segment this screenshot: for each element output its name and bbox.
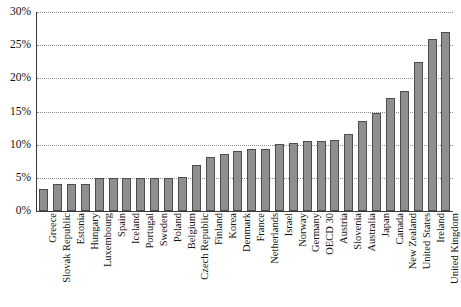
x-tick-label: Belgium xyxy=(176,213,190,305)
x-tick-label: Austria xyxy=(328,213,342,305)
bar[interactable] xyxy=(330,140,339,211)
bar[interactable] xyxy=(150,178,159,211)
bar-slot xyxy=(190,12,204,211)
bar-slot xyxy=(328,12,342,211)
y-tick-label: 20% xyxy=(10,73,31,85)
bar[interactable] xyxy=(275,144,284,211)
bar-slot xyxy=(245,12,259,211)
bar-slot xyxy=(411,12,425,211)
bar[interactable] xyxy=(358,121,367,211)
x-tick-label: Finland xyxy=(203,213,217,305)
x-tick-label: Norway xyxy=(287,213,301,305)
x-tick-label: United Kingdom xyxy=(439,213,453,305)
y-tick-label: 25% xyxy=(10,39,31,51)
bar-slot xyxy=(300,12,314,211)
bar[interactable] xyxy=(122,178,131,211)
x-tick-label: Canada xyxy=(384,213,398,305)
x-tick-label: Israel xyxy=(273,213,287,305)
bar[interactable] xyxy=(317,141,326,211)
y-axis: 0%5%10%15%20%25%30% xyxy=(0,0,34,215)
bar[interactable] xyxy=(206,157,215,211)
x-axis: GreeceSlovak RepublicEstoniaHungaryLuxem… xyxy=(37,213,453,307)
bar[interactable] xyxy=(178,177,187,211)
bar-slot xyxy=(384,12,398,211)
x-tick-label: Ireland xyxy=(425,213,439,305)
bar-slot xyxy=(134,12,148,211)
plot-area xyxy=(37,12,453,211)
bar-slot xyxy=(314,12,328,211)
bar[interactable] xyxy=(261,149,270,211)
bar[interactable] xyxy=(372,113,381,211)
bar-slot xyxy=(425,12,439,211)
x-tick-label: Australia xyxy=(356,213,370,305)
x-tick-label: Spain xyxy=(106,213,120,305)
bar[interactable] xyxy=(53,184,62,211)
x-tick-label-text: United Kingdom xyxy=(450,213,461,284)
x-tick-label: Korea xyxy=(217,213,231,305)
y-tick-label: 5% xyxy=(16,172,31,184)
bar[interactable] xyxy=(386,98,395,211)
x-tick-label: Sweden xyxy=(148,213,162,305)
bar-slot xyxy=(176,12,190,211)
bar[interactable] xyxy=(289,143,298,211)
bar-slot xyxy=(51,12,65,211)
x-tick-label: Czech Republic xyxy=(190,213,204,305)
bar-slot xyxy=(79,12,93,211)
x-tick-label: OECD 30 xyxy=(314,213,328,305)
bar-slot xyxy=(259,12,273,211)
bar-slot xyxy=(203,12,217,211)
bar-slot xyxy=(92,12,106,211)
bar[interactable] xyxy=(136,178,145,211)
bar-slot xyxy=(273,12,287,211)
bar-slot xyxy=(439,12,453,211)
bar[interactable] xyxy=(81,184,90,211)
y-tick-label: 30% xyxy=(10,6,31,18)
bar-slot xyxy=(120,12,134,211)
bar[interactable] xyxy=(400,91,409,211)
x-tick-label: Slovenia xyxy=(342,213,356,305)
bar-slot xyxy=(217,12,231,211)
bar[interactable] xyxy=(95,178,104,211)
bar-slot xyxy=(398,12,412,211)
x-tick-label: Portugal xyxy=(134,213,148,305)
x-tick-label: Netherlands xyxy=(259,213,273,305)
x-tick-label: France xyxy=(245,213,259,305)
bar-slot xyxy=(65,12,79,211)
bar-slot xyxy=(37,12,51,211)
bar[interactable] xyxy=(67,184,76,211)
x-tick-label: Germany xyxy=(300,213,314,305)
x-tick-label: Greece xyxy=(37,213,51,305)
bar-slot xyxy=(106,12,120,211)
x-tick-label: Poland xyxy=(162,213,176,305)
x-tick-label: Hungary xyxy=(79,213,93,305)
y-tick-label: 0% xyxy=(16,205,31,217)
bar-slot xyxy=(356,12,370,211)
x-tick-label: Japan xyxy=(370,213,384,305)
x-tick-label: Estonia xyxy=(65,213,79,305)
bar[interactable] xyxy=(344,134,353,211)
bar-slot xyxy=(231,12,245,211)
y-tick-label: 15% xyxy=(10,106,31,118)
x-tick-label: New Zealand xyxy=(398,213,412,305)
bar[interactable] xyxy=(39,189,48,211)
bar[interactable] xyxy=(233,151,242,211)
x-tick-label: Luxembourg xyxy=(92,213,106,305)
y-tick-label: 10% xyxy=(10,139,31,151)
bar[interactable] xyxy=(247,149,256,211)
bar[interactable] xyxy=(441,32,450,211)
x-tick-label: United States xyxy=(411,213,425,305)
x-tick-label: Iceland xyxy=(120,213,134,305)
bar[interactable] xyxy=(303,141,312,211)
bar-slot xyxy=(287,12,301,211)
bar[interactable] xyxy=(164,178,173,211)
x-tick-label: Slovak Republic xyxy=(51,213,65,305)
bar-slot xyxy=(370,12,384,211)
bar[interactable] xyxy=(428,39,437,211)
bar[interactable] xyxy=(109,178,118,211)
bar-slot xyxy=(342,12,356,211)
bar[interactable] xyxy=(192,165,201,211)
bar[interactable] xyxy=(220,154,229,211)
bar-slot xyxy=(148,12,162,211)
bar[interactable] xyxy=(414,62,423,211)
